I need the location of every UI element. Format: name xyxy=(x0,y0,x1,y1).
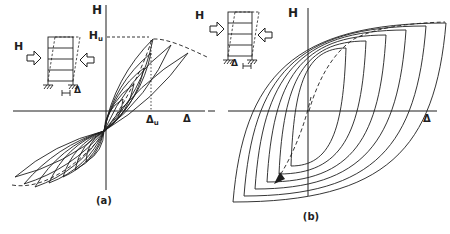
a-hysteresis-loops xyxy=(12,39,207,187)
push-left-arrow-icon xyxy=(258,28,272,42)
a-peak-displacement-label: Δu xyxy=(146,115,159,127)
displacement-dimension-icon xyxy=(62,90,70,96)
b-caption: (b) xyxy=(300,212,322,222)
push-right-arrow-icon xyxy=(210,22,224,36)
b-x-axis-label: Δ xyxy=(423,114,431,124)
panel-a xyxy=(12,5,215,190)
a-peak-load-base: H xyxy=(89,29,98,42)
b-icon-force-label: H xyxy=(195,10,204,21)
hysteresis-loop xyxy=(267,35,386,182)
a-icon-displacement-label: Δ xyxy=(74,86,81,95)
displacement-dimension-icon xyxy=(243,63,251,69)
push-right-arrow-icon xyxy=(27,51,41,65)
hysteresis-petal xyxy=(104,53,151,131)
a-y-axis-label: H xyxy=(92,4,102,16)
a-icon-force-label: H xyxy=(14,41,23,52)
a-peak-disp-base: Δ xyxy=(146,114,154,125)
hysteresis-figure xyxy=(0,0,450,234)
b-frame-icon xyxy=(210,12,272,69)
deformed-column-dashed xyxy=(252,12,259,56)
b-hysteresis-loops xyxy=(233,22,446,202)
hysteresis-loop xyxy=(291,48,346,166)
panel-b xyxy=(210,8,446,202)
figure-canvas: H Hu Δu Δ (a) H Δ H Δ (b) H Δ xyxy=(0,0,450,234)
push-left-arrow-icon xyxy=(80,53,94,67)
a-peak-load-label: Hu xyxy=(83,30,103,43)
support-icon xyxy=(43,81,53,89)
a-x-axis-label: Δ xyxy=(183,114,191,124)
a-caption: (a) xyxy=(93,196,115,206)
b-y-axis-label: H xyxy=(288,7,298,19)
a-peak-disp-sub: u xyxy=(154,119,159,127)
deformed-column-dashed xyxy=(73,37,80,81)
b-icon-displacement-label: Δ xyxy=(231,59,238,68)
a-frame-icon xyxy=(27,37,94,96)
a-peak-load-sub: u xyxy=(98,35,103,43)
support-icon xyxy=(247,56,257,64)
